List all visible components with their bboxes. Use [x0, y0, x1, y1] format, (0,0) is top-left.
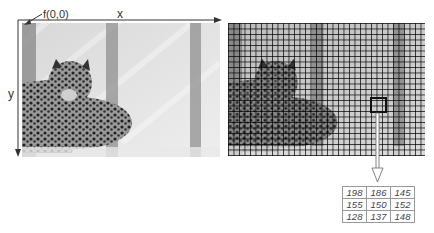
- pixel-values-table: 198 186 145 155 150 152 128 137 148: [342, 186, 415, 223]
- axes: [0, 0, 230, 165]
- pixel-value: 152: [391, 199, 415, 211]
- pixel-value: 148: [391, 211, 415, 223]
- pixel-grid-lines: [228, 23, 425, 156]
- highlighted-pixel-block: [370, 97, 387, 113]
- pixel-value: 186: [367, 187, 391, 199]
- pixel-value: 150: [367, 199, 391, 211]
- x-axis-arrow-icon: [214, 17, 222, 23]
- y-axis-label: y: [8, 88, 14, 100]
- y-axis-arrow-icon: [15, 149, 21, 157]
- pixel-grid-photo: [228, 23, 425, 156]
- table-row: 198 186 145: [343, 187, 415, 199]
- table-row: 128 137 148: [343, 211, 415, 223]
- pixel-value: 145: [391, 187, 415, 199]
- down-arrow-icon: [372, 168, 383, 182]
- pixel-value: 155: [343, 199, 367, 211]
- pixel-value: 137: [367, 211, 391, 223]
- zoom-arrow: [370, 112, 386, 184]
- pixel-value: 198: [343, 187, 367, 199]
- pixel-value: 128: [343, 211, 367, 223]
- table-row: 155 150 152: [343, 199, 415, 211]
- origin-label: f(0,0): [43, 9, 69, 20]
- x-axis-label: x: [117, 8, 123, 20]
